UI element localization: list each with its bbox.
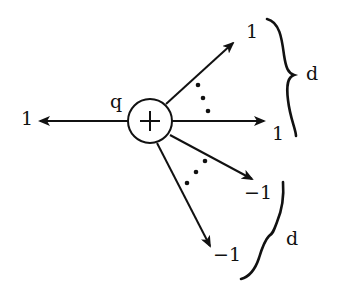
edge-label-left: 1	[21, 107, 33, 129]
node-label: q	[110, 90, 122, 112]
arrow-lower-right	[170, 135, 252, 179]
arrow-upper-right	[166, 43, 233, 104]
arrow-down	[157, 143, 210, 246]
edge-label-down: −1	[213, 243, 241, 265]
edge-right: 1	[172, 121, 284, 144]
edge-label-upper-right: 1	[246, 20, 258, 42]
edge-lower-right: −1	[170, 135, 272, 203]
sum-node: q	[110, 90, 172, 143]
edge-label-right: 1	[272, 122, 284, 144]
ellipsis-upper	[196, 83, 211, 114]
brace-upper-label: d	[306, 62, 318, 84]
brace-lower-label: d	[286, 227, 298, 249]
ellipsis-lower	[185, 159, 208, 186]
edge-upper-right: 1	[166, 20, 258, 104]
edge-down: −1	[157, 143, 241, 265]
brace-upper: d	[267, 19, 318, 136]
edge-label-lower-right: −1	[244, 181, 272, 203]
brace-upper-shape	[267, 19, 296, 136]
diagram-canvas: 1 1 1 −1 −1 q d	[0, 0, 342, 302]
